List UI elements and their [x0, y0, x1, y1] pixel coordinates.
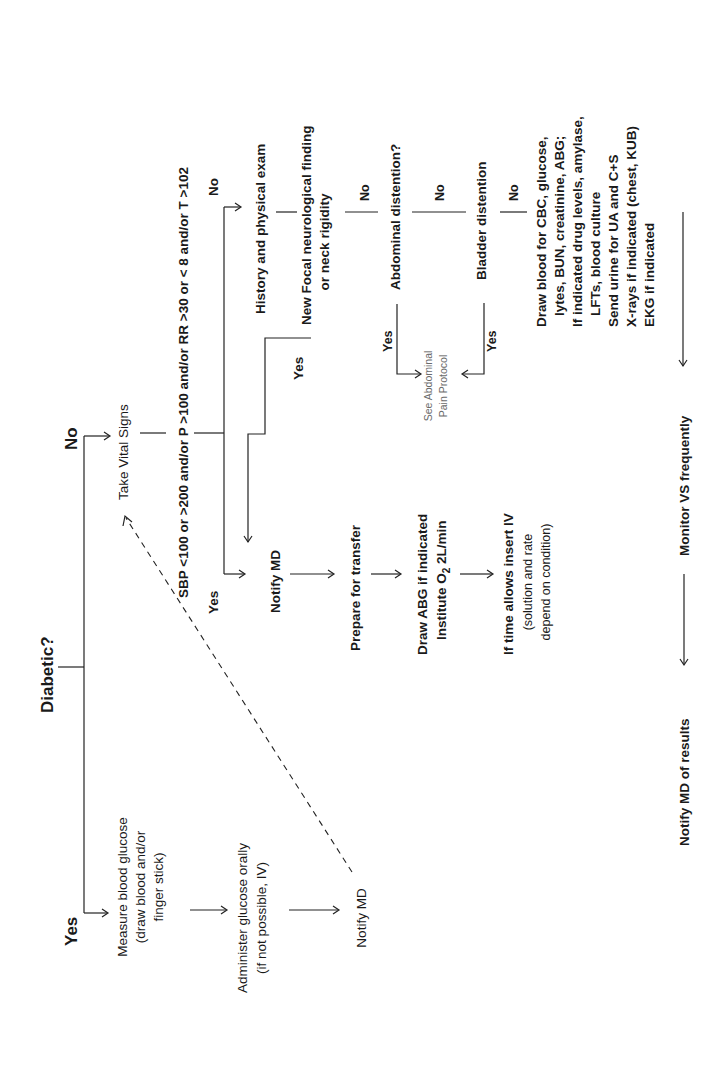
criteria-yes-label: Yes — [206, 591, 221, 614]
svg-text:X-rays if indicated (chest, KU: X-rays if indicated (chest, KUB) — [624, 126, 639, 327]
neuro-no-label: No — [358, 184, 372, 201]
svg-text:Draw blood for CBC, glucose,: Draw blood for CBC, glucose, — [534, 136, 549, 327]
svg-text:See Abdominal: See Abdominal — [422, 351, 434, 422]
svg-text:LFTs, blood culture: LFTs, blood culture — [588, 191, 603, 316]
bladder-no-label: No — [507, 184, 521, 201]
criteria-no-label: No — [206, 178, 221, 196]
notify-md-results: Notify MD of results — [677, 718, 692, 846]
svg-text:Measure blood glucose: Measure blood glucose — [115, 817, 130, 957]
svg-text:Administer glucose orally: Administer glucose orally — [235, 843, 250, 993]
svg-text:(draw blood and/or: (draw blood and/or — [133, 830, 148, 943]
svg-text:Send urine for UA and C+S: Send urine for UA and C+S — [606, 155, 621, 327]
abdominal-question: Abdominal distention? — [388, 144, 403, 290]
svg-text:EKG if indicated: EKG if indicated — [642, 223, 657, 327]
see-abdominal-protocol: See Abdominal Pain Protocol — [422, 351, 449, 422]
bladder-yes-label: Yes — [485, 330, 499, 352]
svg-text:Pain Protocol: Pain Protocol — [437, 355, 449, 417]
prepare-transfer: Prepare for transfer — [348, 524, 363, 651]
svg-text:(if not possible, IV): (if not possible, IV) — [254, 862, 269, 974]
return-dashed-line — [126, 518, 352, 872]
svg-text:Institute O2 2L/min: Institute O2 2L/min — [434, 520, 452, 640]
vitals-criteria: SBP <100 or >200 and/or P >100 and/or RR… — [176, 167, 191, 598]
step-administer-glucose: Administer glucose orally (if not possib… — [235, 843, 269, 993]
svg-text:or neck rigidity: or neck rigidity — [317, 193, 332, 290]
abg-oxygen-step: Draw ABG if indicated Institute O2 2L/mi… — [415, 514, 452, 655]
abdominal-yes-path — [397, 304, 420, 374]
svg-text:depend on condition): depend on condition) — [539, 524, 553, 641]
svg-text:lytes, BUN, creatinine, ABG;: lytes, BUN, creatinine, ABG; — [552, 136, 567, 316]
no-label: No — [62, 427, 81, 450]
protocol-flowchart: Diabetic? Yes Measure blood glucose (dra… — [0, 0, 716, 1073]
monitor-vs: Monitor VS frequently — [677, 415, 692, 556]
notify-md-emergency: Notify MD — [268, 550, 283, 613]
svg-text:Draw ABG if indicated: Draw ABG if indicated — [415, 514, 430, 655]
svg-text:If time allows insert IV: If time allows insert IV — [501, 513, 516, 655]
bladder-yes-path — [463, 303, 484, 374]
insert-iv-step: If time allows insert IV (solution and r… — [501, 513, 553, 655]
svg-text:(solution and rate: (solution and rate — [521, 534, 535, 631]
neuro-question: New Focal neurological finding or neck r… — [299, 125, 332, 325]
take-vital-signs: Take Vital Signs — [116, 404, 131, 500]
bladder-question: Bladder distention — [474, 161, 489, 280]
workup-orders: Draw blood for CBC, glucose, lytes, BUN,… — [534, 116, 657, 327]
svg-text:finger stick): finger stick) — [151, 852, 166, 921]
abdominal-yes-label: Yes — [381, 330, 395, 352]
svg-text:New Focal neurological finding: New Focal neurological finding — [299, 125, 314, 325]
history-physical-exam: History and physical exam — [253, 144, 268, 314]
yes-label: Yes — [62, 917, 81, 946]
step-notify-md-diabetic: Notify MD — [354, 888, 369, 948]
root-question: Diabetic? — [38, 636, 57, 713]
step-measure-glucose: Measure blood glucose (draw blood and/or… — [115, 817, 166, 957]
svg-text:If indicated drug levels, amyl: If indicated drug levels, amylase, — [570, 116, 585, 327]
abdominal-no-label: No — [433, 184, 447, 201]
neuro-yes-label: Yes — [291, 357, 306, 380]
